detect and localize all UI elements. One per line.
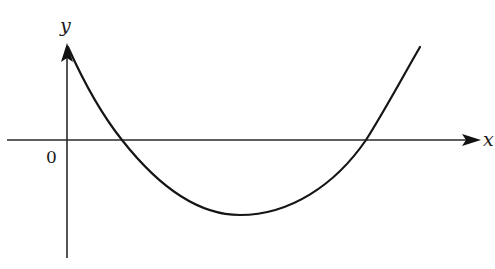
graph-canvas: y x 0 <box>0 0 495 269</box>
origin-label: 0 <box>46 147 57 167</box>
y-axis-label: y <box>59 14 71 36</box>
x-axis-label: x <box>483 128 494 150</box>
function-curve <box>68 47 420 215</box>
